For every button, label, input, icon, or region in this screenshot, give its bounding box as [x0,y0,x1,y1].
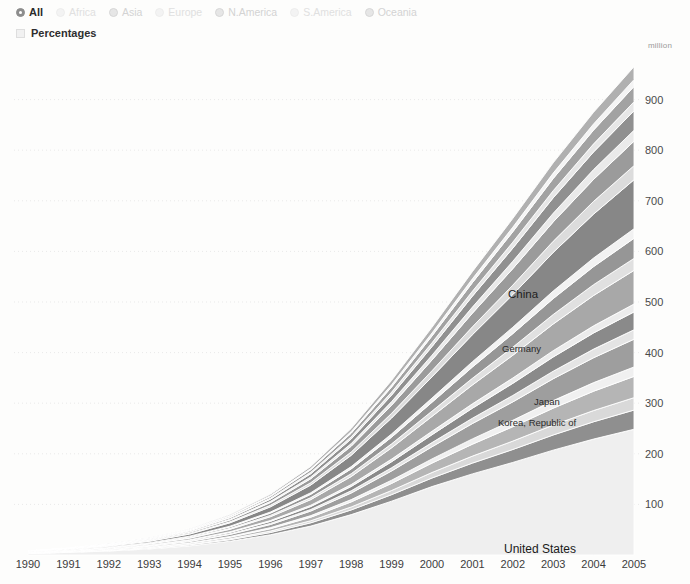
x-axis-tick: 1999 [370,558,414,571]
radio-icon[interactable] [365,8,374,17]
y-axis-tick: 500 [645,297,687,308]
area-series-group [14,46,640,556]
y-axis-tick: 700 [645,196,687,207]
chart-canvas: China Germany Japan Korea, Republic of U… [0,46,690,556]
x-axis: 1990199119921993199419951996199719981999… [0,558,690,582]
checkbox-icon[interactable] [16,29,25,38]
region-option-label: Asia [122,7,142,18]
y-axis-tick: 100 [645,499,687,510]
x-axis-tick: 2005 [612,558,656,571]
y-axis-tick: 400 [645,348,687,359]
region-filter-group[interactable]: AllAfricaAsiaEuropeN.AmericaS.AmericaOce… [16,4,430,20]
x-axis-tick: 1993 [127,558,171,571]
x-axis-tick: 1996 [248,558,292,571]
region-option-oceania[interactable]: Oceania [365,7,417,18]
x-axis-tick: 1990 [6,558,50,571]
radio-icon[interactable] [155,8,164,17]
x-axis-tick: 1998 [329,558,373,571]
y-axis: 100200300400500600700800900 [645,46,690,558]
region-option-label: All [29,7,43,18]
stacked-area-plot [14,46,640,556]
radio-icon[interactable] [215,8,224,17]
region-option-africa[interactable]: Africa [56,7,96,18]
x-axis-tick: 2001 [450,558,494,571]
region-option-n-america[interactable]: N.America [215,7,277,18]
region-option-s-america[interactable]: S.America [290,7,351,18]
x-axis-tick: 2000 [410,558,454,571]
x-axis-tick: 1995 [208,558,252,571]
y-axis-tick: 900 [645,95,687,106]
x-axis-tick: 1994 [168,558,212,571]
y-axis-tick: 300 [645,398,687,409]
x-axis-tick: 2004 [572,558,616,571]
x-axis-tick: 1997 [289,558,333,571]
percentages-toggle[interactable]: Percentages [16,25,96,41]
x-axis-tick: 2003 [531,558,575,571]
region-option-label: S.America [303,7,351,18]
radio-icon[interactable] [16,8,25,17]
region-option-asia[interactable]: Asia [109,7,142,18]
region-option-label: Africa [69,7,96,18]
region-option-label: Oceania [378,7,417,18]
x-axis-tick: 1992 [87,558,131,571]
region-option-label: Europe [168,7,202,18]
y-axis-tick: 600 [645,246,687,257]
y-axis-tick: 800 [645,145,687,156]
radio-icon[interactable] [290,8,299,17]
region-option-europe[interactable]: Europe [155,7,202,18]
radio-icon[interactable] [56,8,65,17]
radio-icon[interactable] [109,8,118,17]
x-axis-tick: 2002 [491,558,535,571]
region-option-all[interactable]: All [16,7,43,18]
percentages-label: Percentages [31,27,96,39]
x-axis-tick: 1991 [46,558,90,571]
y-axis-tick: 200 [645,449,687,460]
region-option-label: N.America [228,7,277,18]
chart-controls: AllAfricaAsiaEuropeN.AmericaS.AmericaOce… [0,0,690,46]
